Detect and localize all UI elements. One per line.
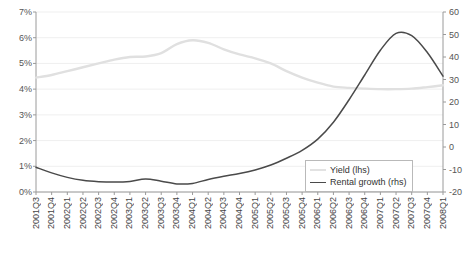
x-axis-tick-label: 2006Q3	[345, 197, 354, 229]
x-axis-tick-label: 2002Q3	[94, 197, 103, 229]
y-axis-right-tick-label: 30	[449, 75, 459, 84]
y-axis-right-tick-label: 50	[449, 30, 459, 39]
x-axis-tick-label: 2007Q3	[407, 197, 416, 229]
y-axis-right-tick-label: 0	[449, 143, 454, 152]
y-axis-left-tick-label: 4%	[19, 85, 32, 94]
x-axis-tick-label: 2005Q1	[251, 197, 260, 229]
x-axis-tick-label: 2007Q1	[376, 197, 385, 229]
x-axis-tick-label: 2003Q1	[125, 197, 134, 229]
x-axis-tick-label: 2004Q3	[219, 197, 228, 229]
y-axis-left-tick-label: 3%	[19, 110, 32, 119]
legend-swatch-rental-growth-icon	[310, 182, 326, 183]
y-axis-right-tick-label: 10	[449, 120, 459, 129]
legend-swatch-yield-icon	[310, 169, 326, 171]
y-axis-left-tick-label: 6%	[19, 33, 32, 42]
legend-item-yield: Yield (lhs)	[310, 164, 407, 176]
y-axis-right-tick-label: -10	[449, 165, 462, 174]
chart-legend: Yield (lhs) Rental growth (rhs)	[305, 160, 413, 192]
x-axis-tick-label: 2003Q4	[172, 197, 181, 229]
x-axis-tick-label: 2003Q3	[157, 197, 166, 229]
x-axis-tick-label: 2007Q4	[423, 197, 432, 229]
y-axis-left-tick-label: 1%	[19, 162, 32, 171]
x-axis-tick-label: 2004Q2	[204, 197, 213, 229]
x-axis-tick-label: 2005Q3	[282, 197, 291, 229]
x-axis-tick-label: 2007Q2	[392, 197, 401, 229]
x-axis-tick-label: 2003Q2	[141, 197, 150, 229]
x-axis-tick-label: 2005Q2	[266, 197, 275, 229]
y-axis-right-tick-label: 40	[449, 53, 459, 62]
y-axis-right-tick-label: 60	[449, 8, 459, 17]
x-axis-tick-label: 2004Q4	[235, 197, 244, 229]
x-axis-tick-label: 2002Q4	[110, 197, 119, 229]
x-axis-tick-label: 2002Q2	[79, 197, 88, 229]
legend-item-rental-growth: Rental growth (rhs)	[310, 176, 407, 188]
x-axis-tick-label: 2002Q1	[63, 197, 72, 229]
x-axis-tick-label: 2008Q1	[439, 197, 448, 229]
y-axis-right-tick-label: 20	[449, 98, 459, 107]
x-axis-tick-label: 2006Q1	[313, 197, 322, 229]
y-axis-right-tick-label: -20	[449, 188, 462, 197]
x-axis-tick-label: 2006Q4	[360, 197, 369, 229]
x-axis-tick-label: 2006Q2	[329, 197, 338, 229]
x-axis-tick-label: 2005Q4	[298, 197, 307, 229]
y-axis-left-tick-label: 7%	[19, 8, 32, 17]
y-axis-left-tick-label: 2%	[19, 136, 32, 145]
chart-container: 0%1%2%3%4%5%6%7% -20-100102030405060 200…	[0, 0, 475, 257]
x-axis-tick-label: 2004Q1	[188, 197, 197, 229]
y-axis-left-tick-label: 5%	[19, 59, 32, 68]
legend-label-rental-growth: Rental growth (rhs)	[330, 177, 407, 188]
y-axis-left-tick-label: 0%	[19, 188, 32, 197]
x-axis-tick-label: 2001Q3	[32, 197, 41, 229]
legend-label-yield: Yield (lhs)	[330, 165, 370, 176]
x-axis-tick-label: 2001Q4	[47, 197, 56, 229]
